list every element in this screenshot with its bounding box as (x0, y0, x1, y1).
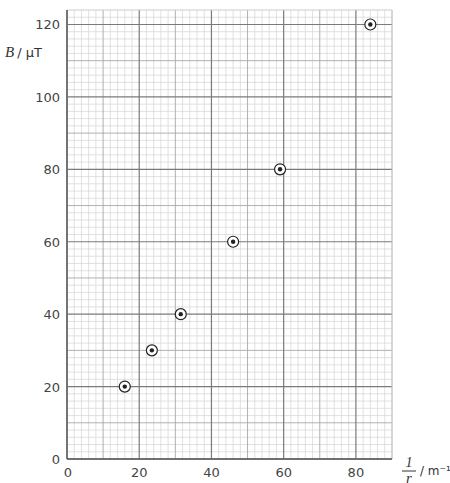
x-tick-label: 60 (275, 465, 292, 480)
y-axis-variable: B (5, 44, 14, 60)
x-axis-numerator: 1 (406, 455, 413, 470)
y-tick-label: 120 (35, 17, 60, 32)
y-tick-label: 60 (43, 235, 60, 250)
data-point (275, 164, 286, 175)
marker-dot-icon (150, 348, 154, 352)
x-tick-label: 40 (203, 465, 220, 480)
y-tick-label: 0 (52, 452, 60, 467)
grid-minor-lines (67, 10, 392, 459)
y-axis-label: B/ μT (5, 44, 42, 60)
data-point (146, 345, 157, 356)
data-point (175, 309, 186, 320)
marker-dot-icon (231, 240, 235, 244)
x-axis-label: 1 r / m⁻¹ (402, 455, 450, 483)
x-axis-unit: / m⁻¹ (420, 464, 450, 478)
x-tick-labels: 020406080 (64, 465, 364, 480)
chart: 020406080 020406080100120 B/ μT 1 r / m⁻… (0, 0, 450, 483)
marker-dot-icon (123, 384, 127, 388)
data-point (365, 19, 376, 30)
data-point (119, 381, 130, 392)
y-tick-label: 40 (43, 307, 60, 322)
x-tick-label: 80 (348, 465, 365, 480)
marker-dot-icon (179, 312, 183, 316)
x-axis-denominator: r (406, 470, 412, 483)
y-tick-label: 80 (43, 162, 60, 177)
y-tick-labels: 020406080100120 (35, 17, 60, 467)
data-point (228, 236, 239, 247)
x-tick-label: 20 (131, 465, 148, 480)
x-tick-label: 0 (64, 465, 72, 480)
y-tick-label: 100 (35, 90, 60, 105)
marker-dot-icon (278, 167, 282, 171)
y-axis-unit: / μT (17, 45, 42, 60)
y-tick-label: 20 (43, 380, 60, 395)
marker-dot-icon (368, 22, 372, 26)
